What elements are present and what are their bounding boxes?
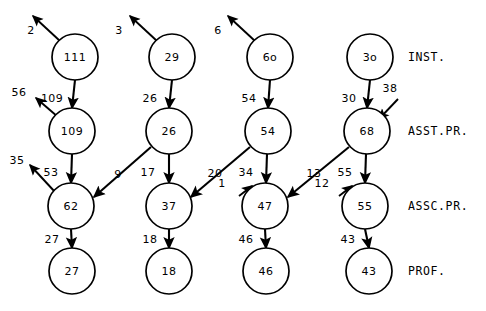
node-value-n-3o: 3o (363, 51, 378, 64)
external-out-label-x-29: 3 (115, 24, 122, 37)
node-value-n-62: 62 (64, 200, 79, 213)
external-out-label-x-6o: 6 (214, 24, 221, 37)
nodes-layer: 111296o3o1092654686237475527184643 (48, 34, 393, 294)
node-n-46[interactable]: 46 (243, 248, 289, 294)
edges-layer: 109265430531734552718464392013 (41, 80, 370, 248)
edge-e-109-62 (71, 154, 72, 183)
node-value-n-68: 68 (360, 125, 375, 138)
external-in-label-i-55: 12 (315, 177, 330, 190)
external-out-arrow-x-111 (33, 16, 60, 41)
node-value-n-55: 55 (358, 200, 373, 213)
node-value-n-6o: 6o (263, 51, 278, 64)
rank-label-asst-pr: ASST.PR. (408, 124, 468, 138)
node-value-n-111: 111 (64, 51, 87, 64)
node-value-n-29: 29 (165, 51, 180, 64)
edge-e-47-46 (265, 229, 266, 248)
edge-e-68-55 (365, 154, 366, 183)
node-n-55[interactable]: 55 (342, 183, 388, 229)
node-n-26[interactable]: 26 (146, 108, 192, 154)
node-n-47[interactable]: 47 (242, 183, 288, 229)
node-value-n-54: 54 (261, 125, 276, 138)
rank-label-inst: INST. (408, 50, 446, 64)
node-value-n-18: 18 (162, 265, 177, 278)
edge-label-e-62-27: 27 (45, 233, 60, 246)
node-n-18[interactable]: 18 (146, 248, 192, 294)
external-out-label-x-62: 35 (10, 154, 25, 167)
node-n-109[interactable]: 109 (49, 108, 95, 154)
edge-label-e-111-109: 109 (41, 92, 63, 105)
diagram-canvas: 109265430531734552718464392013 236563538… (0, 0, 486, 311)
external-out-arrow-x-29 (130, 16, 157, 41)
edge-label-e-26-37: 17 (141, 166, 156, 179)
edge-e-111-109 (72, 80, 75, 108)
edge-e-29-26 (169, 80, 172, 108)
node-n-111[interactable]: 111 (52, 34, 98, 80)
node-n-6o[interactable]: 6o (247, 34, 293, 80)
edge-e-6o-54 (268, 80, 270, 108)
node-n-54[interactable]: 54 (245, 108, 291, 154)
node-n-68[interactable]: 68 (344, 108, 390, 154)
edge-label-e-55-43: 43 (341, 233, 356, 246)
node-value-n-43: 43 (362, 265, 377, 278)
rank-labels-layer: INST.ASST.PR.ASSC.PR.PROF. (408, 50, 468, 278)
edge-e-3o-68 (367, 80, 370, 108)
external-out-label-x-111: 2 (27, 24, 34, 37)
node-n-3o[interactable]: 3o (347, 34, 393, 80)
node-n-62[interactable]: 62 (48, 183, 94, 229)
node-value-n-46: 46 (259, 265, 274, 278)
edge-label-e-54-47: 34 (239, 166, 254, 179)
flow-diagram: 109265430531734552718464392013 236563538… (0, 0, 486, 311)
edge-label-e-37-18: 18 (143, 233, 158, 246)
node-n-37[interactable]: 37 (146, 183, 192, 229)
edge-e-55-43 (365, 229, 369, 248)
edge-label-e-68-55: 55 (338, 166, 353, 179)
node-n-29[interactable]: 29 (149, 34, 195, 80)
node-value-n-27: 27 (65, 265, 80, 278)
edge-e-62-27 (71, 229, 72, 248)
edge-label-e-6o-54: 54 (242, 92, 257, 105)
external-in-label-i-47: 1 (218, 177, 225, 190)
node-value-n-47: 47 (258, 200, 273, 213)
edge-e-54-47 (266, 154, 267, 183)
external-in-label-i-68: 38 (383, 82, 398, 95)
external-out-label-x-109: 56 (12, 86, 27, 99)
edge-label-e-3o-68: 30 (342, 92, 357, 105)
external-out-arrow-x-6o (228, 16, 255, 41)
edge-label-e-47-46: 46 (239, 233, 254, 246)
node-value-n-109: 109 (61, 125, 84, 138)
node-value-n-26: 26 (162, 125, 177, 138)
rank-label-prof: PROF. (408, 264, 446, 278)
edge-label-e-29-26: 26 (143, 92, 158, 105)
rank-label-assc-pr: ASSC.PR. (408, 199, 468, 213)
node-n-27[interactable]: 27 (49, 248, 95, 294)
edge-label-e-26-62: 9 (114, 168, 121, 181)
node-n-43[interactable]: 43 (346, 248, 392, 294)
node-value-n-37: 37 (162, 200, 177, 213)
edge-label-e-109-62: 53 (44, 166, 59, 179)
